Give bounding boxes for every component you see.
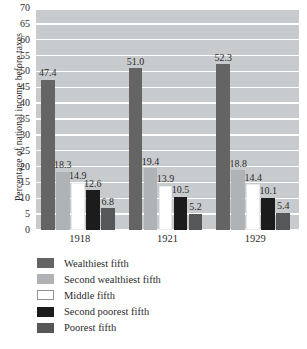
chart-legend: Wealthiest fifthSecond wealthiest fifthM… xyxy=(37,255,267,336)
legend-item-label: Second poorest fifth xyxy=(64,306,149,317)
bar xyxy=(71,183,85,230)
bar-value-label: 10.5 xyxy=(168,185,194,195)
y-axis-tick: 30 xyxy=(20,130,30,140)
bar xyxy=(189,214,203,230)
legend-swatch-icon xyxy=(37,258,54,268)
y-axis-tick: 5 xyxy=(25,209,30,219)
bar-value-label: 5.4 xyxy=(270,201,296,211)
bar-value-label: 10.1 xyxy=(255,186,281,196)
legend-swatch-icon xyxy=(37,274,54,284)
plot-area: 47.418.314.912.66.851.019.413.910.55.252… xyxy=(36,8,299,230)
y-axis-tick: 35 xyxy=(20,114,30,124)
legend-item[interactable]: Wealthiest fifth xyxy=(37,255,267,271)
bar xyxy=(276,213,290,230)
bar-chart: Percentage of national income before tax… xyxy=(0,0,307,349)
bar-value-label: 47.4 xyxy=(35,68,61,78)
bar-value-label: 12.6 xyxy=(80,179,106,189)
y-axis-tick: 15 xyxy=(20,177,30,187)
bar-value-label: 14.4 xyxy=(240,173,266,183)
bar-value-label: 13.9 xyxy=(153,174,179,184)
legend-swatch-icon xyxy=(37,290,54,300)
bar-value-label: 18.3 xyxy=(50,160,76,170)
legend-swatch-icon xyxy=(37,307,54,317)
x-axis-tick-labels: 191819211929 xyxy=(36,233,299,249)
bar xyxy=(129,68,143,230)
bar-value-label: 51.0 xyxy=(123,57,149,67)
bar-value-label: 6.8 xyxy=(95,197,121,207)
legend-swatch-icon xyxy=(37,323,54,333)
y-axis-tick: 0 xyxy=(25,225,30,235)
y-axis-tick: 60 xyxy=(20,35,30,45)
y-axis-tick-labels: 7065605550454035302520151050 xyxy=(0,8,33,230)
legend-item[interactable]: Middle fifth xyxy=(37,287,267,303)
legend-item-label: Middle fifth xyxy=(64,290,115,301)
legend-item-label: Poorest fifth xyxy=(64,322,116,333)
bar-value-label: 19.4 xyxy=(138,157,164,167)
x-axis-tick: 1929 xyxy=(245,233,266,245)
bars-layer: 47.418.314.912.66.851.019.413.910.55.252… xyxy=(36,8,299,230)
y-axis-tick: 70 xyxy=(20,3,30,13)
y-axis-tick: 20 xyxy=(20,162,30,172)
bar xyxy=(41,80,55,230)
bar-value-label: 18.8 xyxy=(225,159,251,169)
y-axis-tick: 50 xyxy=(20,66,30,76)
x-axis-tick: 1921 xyxy=(157,233,178,245)
y-axis-tick: 40 xyxy=(20,98,30,108)
legend-item-label: Wealthiest fifth xyxy=(64,258,129,269)
bar-value-label: 5.2 xyxy=(183,202,209,212)
bar xyxy=(216,64,230,230)
bar xyxy=(101,208,115,230)
bar-value-label: 52.3 xyxy=(210,53,236,63)
y-axis-tick: 25 xyxy=(20,146,30,156)
legend-item-label: Second wealthiest fifth xyxy=(64,274,161,285)
y-axis-tick: 65 xyxy=(20,19,30,29)
legend-item[interactable]: Second wealthiest fifth xyxy=(37,271,267,287)
legend-item[interactable]: Second poorest fifth xyxy=(37,304,267,320)
y-axis-tick: 55 xyxy=(20,51,30,61)
x-axis-tick: 1918 xyxy=(69,233,90,245)
y-axis-tick: 10 xyxy=(20,193,30,203)
y-axis-tick: 45 xyxy=(20,82,30,92)
legend-item[interactable]: Poorest fifth xyxy=(37,320,267,336)
